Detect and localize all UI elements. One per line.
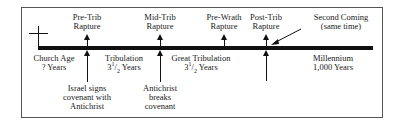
church-age-label: Church Age ? Years xyxy=(34,54,75,72)
mid-trib-label: Mid-Trib Rapture xyxy=(144,13,175,31)
second-coming-label: Second Coming (same time) xyxy=(314,13,369,31)
pre-trib-arrow-shaft xyxy=(87,39,88,47)
antichrist-breaks-line3: covenant xyxy=(143,102,177,111)
israel-covenant-line3: Antichrist xyxy=(63,102,111,111)
pre-wrath-line2: Rapture xyxy=(206,22,241,31)
israel-covenant-label: Israel signs covenant with Antichrist xyxy=(63,84,111,111)
second-coming-diagonal-arrow-icon xyxy=(268,27,304,47)
church-age-line2: ? Years xyxy=(34,63,75,72)
second-coming-line2: (same time) xyxy=(314,22,369,31)
pre-trib-label: Pre-Trib Rapture xyxy=(73,13,102,31)
cross-icon-vertical xyxy=(38,26,39,48)
antichrist-breaks-arrow-shaft xyxy=(160,55,161,82)
mid-trib-arrow-shaft xyxy=(160,39,161,47)
mid-trib-line2: Rapture xyxy=(144,22,175,31)
pre-trib-line2: Rapture xyxy=(73,22,102,31)
tribulation-label: Tribulation 31/2 Years xyxy=(105,54,143,72)
second-coming-lower-arrow-shaft xyxy=(266,55,267,81)
pre-wrath-arrow-shaft xyxy=(224,39,225,47)
great-tribulation-label: Great Tribulation 31/2 Years xyxy=(172,54,231,72)
pre-wrath-label: Pre-Wrath Rapture xyxy=(206,13,241,31)
great-tribulation-years: 31/2 Years xyxy=(172,63,231,72)
antichrist-breaks-label: Antichrist breaks covenant xyxy=(143,84,177,111)
post-trib-arrow-shaft xyxy=(266,39,267,47)
millennium-line2: 1,000 Years xyxy=(313,63,353,72)
tribulation-years: 31/2 Years xyxy=(105,63,143,72)
millennium-label: Millennium 1,000 Years xyxy=(313,54,353,72)
israel-covenant-arrow-shaft xyxy=(87,55,88,82)
